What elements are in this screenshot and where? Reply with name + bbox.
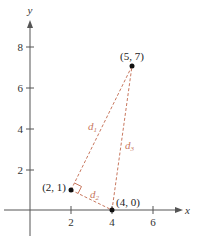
right-angle-marker (75, 183, 82, 194)
y-tick-label: 6 (18, 82, 24, 94)
x-axis-label: x (184, 204, 190, 216)
triangle-segments (71, 66, 132, 210)
x-tick-label: 2 (68, 216, 74, 228)
point-5-7 (130, 64, 135, 69)
segment-d3 (112, 66, 132, 210)
x-axis: x 2 4 6 (4, 204, 190, 228)
segment-label-d1: d1 (88, 120, 97, 134)
segment-label-d2: d2 (90, 188, 100, 202)
coordinate-diagram: x 2 4 6 y 2 4 6 8 d1 d2 d3 (2 (0, 0, 198, 239)
y-axis-label: y (27, 4, 33, 16)
y-axis: y 2 4 6 8 (18, 4, 35, 236)
point-4-0 (110, 208, 115, 213)
y-tick-label: 2 (18, 164, 24, 176)
point-label: (5, 7) (120, 50, 144, 63)
x-axis-arrow-icon (175, 207, 183, 213)
segment-d1 (71, 66, 132, 190)
y-tick-label: 8 (18, 41, 24, 53)
point-2-1 (69, 188, 74, 193)
y-axis-arrow-icon (27, 20, 33, 28)
x-tick-label: 4 (109, 216, 115, 228)
x-tick-label: 6 (150, 216, 156, 228)
point-label: (4, 0) (116, 196, 140, 209)
y-tick-label: 4 (18, 123, 24, 135)
segment-label-d3: d3 (125, 139, 135, 153)
point-label: (2, 1) (42, 181, 66, 194)
